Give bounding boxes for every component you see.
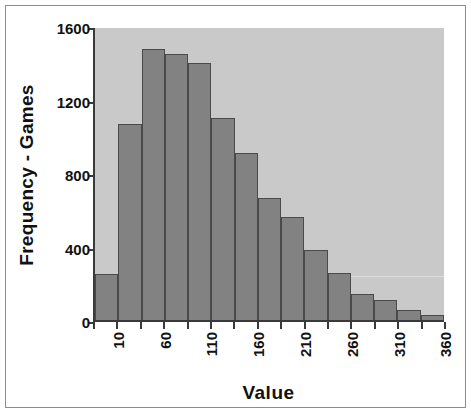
x-axis-tick: [397, 322, 399, 329]
y-axis-tick-label: 800: [65, 168, 90, 183]
x-axis-tick: [116, 322, 118, 329]
x-axis-tick: [163, 322, 165, 329]
y-axis-title: Frequency - Games: [14, 28, 40, 322]
x-axis-tick: [374, 322, 376, 329]
y-axis-tick-label: 400: [65, 241, 90, 256]
chart-figure: Frequency - Games 040080012001600 106011…: [0, 0, 471, 413]
x-axis-tick-label: 260: [345, 332, 360, 357]
x-axis-tick: [444, 322, 446, 329]
x-axis-tick-label: 310: [392, 332, 407, 357]
y-axis-ticks: 040080012001600: [95, 28, 444, 320]
x-axis-tick: [187, 322, 189, 329]
x-axis-tick-label: 210: [298, 332, 313, 357]
y-axis-title-label: Frequency - Games: [16, 84, 38, 265]
x-axis-ticks: [93, 322, 444, 330]
x-axis-tick-label: 10: [111, 332, 126, 349]
x-axis-tick-label: 360: [438, 332, 453, 357]
x-axis-tick: [421, 322, 423, 329]
x-axis-tick: [327, 322, 329, 329]
x-axis-tick: [233, 322, 235, 329]
x-axis-tick: [257, 322, 259, 329]
x-axis-title: Value: [93, 382, 444, 404]
x-axis-tick: [304, 322, 306, 329]
x-axis-tick-label: 160: [251, 332, 266, 357]
x-axis-tick-label: 110: [204, 332, 219, 356]
plot-inner: 040080012001600: [95, 28, 444, 320]
x-axis-tick: [280, 322, 282, 329]
x-axis-tick-label: 60: [158, 332, 173, 349]
x-axis-tick: [140, 322, 142, 329]
x-axis-tick: [93, 322, 95, 329]
y-axis-tick-label: 0: [82, 315, 90, 330]
x-axis-tick: [350, 322, 352, 329]
x-axis-tick-labels: 1060110160210260310360: [93, 332, 444, 378]
x-axis-tick: [210, 322, 212, 329]
plot-area: 040080012001600: [93, 28, 444, 322]
y-axis-tick-label: 1200: [57, 94, 90, 109]
y-axis-tick-label: 1600: [57, 21, 90, 36]
